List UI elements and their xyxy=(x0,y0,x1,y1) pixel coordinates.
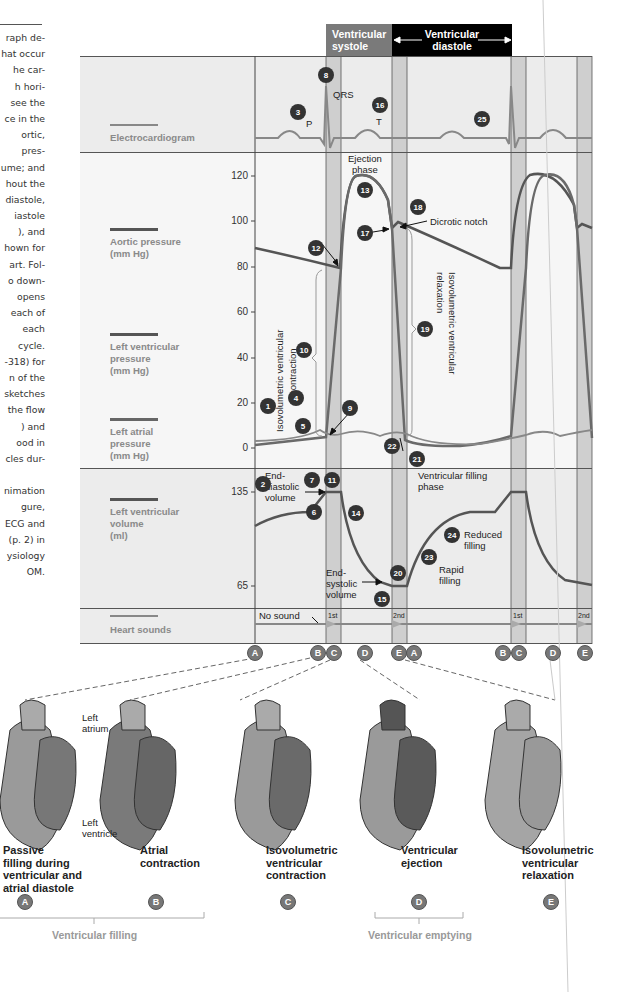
badge-19: 19 xyxy=(417,321,433,337)
phase-letter-d-2: D xyxy=(545,645,561,661)
phase-letter-d: D xyxy=(357,645,373,661)
caption-a-line3: ventricular and xyxy=(3,869,82,882)
badge-12: 12 xyxy=(308,240,324,256)
ejection-phase-label: Ejection phase xyxy=(348,153,382,175)
caption-d-line1: Ventricular xyxy=(401,844,458,857)
vfill-line2: phase xyxy=(418,481,487,492)
caption-e-line1: Isovolumetric xyxy=(522,844,594,857)
vfill-line1: Ventricular filling xyxy=(418,470,487,481)
ventricular-emptying-group-label: Ventricular emptying xyxy=(368,929,472,941)
caption-d: Ventricular ejection xyxy=(401,844,458,869)
rapid-filling-label: Rapid filling xyxy=(439,564,464,586)
badge-13: 13 xyxy=(357,182,373,198)
caption-letter-e: E xyxy=(543,894,559,910)
rapid-line1: Rapid xyxy=(439,564,464,575)
caption-b-line1: Atrial xyxy=(140,844,200,857)
esv-line1: End- xyxy=(326,567,357,578)
badge-17: 17 xyxy=(357,225,373,241)
esv-label: End- systolic volume xyxy=(326,567,357,600)
rapid-line2: filling xyxy=(439,575,464,586)
ejection-line1: Ejection xyxy=(348,153,382,164)
badge-20: 20 xyxy=(390,565,406,581)
reduced-line1: Reduced xyxy=(464,529,502,540)
esv-line2: systolic xyxy=(326,578,357,589)
badge-16: 16 xyxy=(372,97,388,113)
phase-letter-b: B xyxy=(310,645,326,661)
caption-letter-d: D xyxy=(411,894,427,910)
qrs-label: QRS xyxy=(333,89,354,100)
left-atrium-label: Left atrium xyxy=(82,712,108,734)
caption-d-line2: ejection xyxy=(401,857,458,870)
s1-label-2: 1st xyxy=(513,610,522,621)
ivr-label-2: relaxation xyxy=(435,272,446,313)
phase-letter-b-2: B xyxy=(495,645,511,661)
caption-c-line2: ventricular xyxy=(266,857,338,870)
t-wave-label: T xyxy=(376,116,382,127)
phase-letter-c-2: C xyxy=(511,645,527,661)
badge-8: 8 xyxy=(318,67,334,83)
ventricular-filling-group-label: Ventricular filling xyxy=(52,929,137,941)
s2-label-2: 2nd xyxy=(578,610,590,621)
badge-25: 25 xyxy=(474,111,490,127)
phase-letter-c: C xyxy=(326,645,342,661)
badge-21: 21 xyxy=(409,451,425,467)
left-ventricle-label: Left ventricle xyxy=(82,817,117,839)
phase-letter-e: E xyxy=(391,645,407,661)
badge-5: 5 xyxy=(295,418,311,434)
caption-b-line2: contraction xyxy=(140,857,200,870)
caption-e: Isovolumetric ventricular relaxation xyxy=(522,844,594,882)
no-sound-label: No sound xyxy=(259,610,300,621)
caption-a: Passive filling during ventricular and a… xyxy=(3,844,82,894)
badge-7: 7 xyxy=(304,472,320,488)
badge-18: 18 xyxy=(410,199,426,215)
caption-c-line3: contraction xyxy=(266,869,338,882)
dicrotic-notch-label: Dicrotic notch xyxy=(430,216,488,227)
badge-24: 24 xyxy=(444,527,460,543)
phase-letter-a: A xyxy=(247,645,263,661)
left-ventricle-line1: Left xyxy=(82,817,117,828)
badge-23: 23 xyxy=(421,549,437,565)
vfill-phase-label: Ventricular filling phase xyxy=(418,470,487,492)
reduced-line2: filling xyxy=(464,540,502,551)
ivr-label-1: Isovolumetric ventricular xyxy=(447,272,458,374)
s2-label: 2nd xyxy=(393,610,405,621)
ivc-label-1: Isovolumetric ventricular xyxy=(274,330,285,432)
ejection-line2: phase xyxy=(348,164,382,175)
badge-6: 6 xyxy=(306,504,322,520)
ivc-label-2: contraction xyxy=(287,349,298,395)
badge-3: 3 xyxy=(290,104,306,120)
badge-22: 22 xyxy=(384,438,400,454)
badge-11: 11 xyxy=(324,472,340,488)
badge-2: 2 xyxy=(255,476,271,492)
caption-e-line3: relaxation xyxy=(522,869,594,882)
badge-4: 4 xyxy=(288,390,304,406)
phase-letter-a-2: A xyxy=(406,645,422,661)
badge-14: 14 xyxy=(348,505,364,521)
caption-letter-a: A xyxy=(17,894,33,910)
left-ventricle-line2: ventricle xyxy=(82,828,117,839)
caption-a-line4: atrial diastole xyxy=(3,882,82,895)
caption-a-line2: filling during xyxy=(3,857,82,870)
s1-label: 1st xyxy=(328,610,337,621)
caption-c: Isovolumetric ventricular contraction xyxy=(266,844,338,882)
left-atrium-line1: Left xyxy=(82,712,108,723)
caption-a-line1: Passive xyxy=(3,844,82,857)
badge-1: 1 xyxy=(260,398,276,414)
badge-15: 15 xyxy=(374,591,390,607)
edv-line1: End- xyxy=(265,470,299,481)
badge-9: 9 xyxy=(342,400,358,416)
phase-letter-e-2: E xyxy=(577,645,593,661)
caption-letter-c: C xyxy=(280,894,296,910)
left-atrium-line2: atrium xyxy=(82,723,108,734)
reduced-filling-label: Reduced filling xyxy=(464,529,502,551)
esv-line3: volume xyxy=(326,589,357,600)
caption-b: Atrial contraction xyxy=(140,844,200,869)
caption-letter-b: B xyxy=(148,894,164,910)
p-wave-label: P xyxy=(306,118,312,129)
badge-10: 10 xyxy=(296,342,312,358)
caption-c-line1: Isovolumetric xyxy=(266,844,338,857)
edv-line3: volume xyxy=(265,492,299,503)
caption-e-line2: ventricular xyxy=(522,857,594,870)
